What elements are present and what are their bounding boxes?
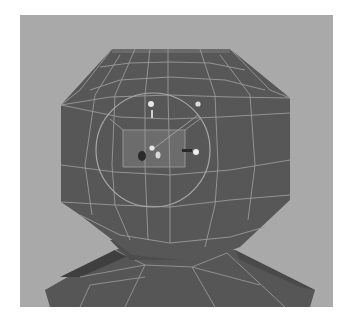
manipulator-handle-z[interactable] [156, 152, 161, 159]
manipulator-handle-top-right[interactable] [195, 101, 200, 106]
manipulator-handle-x[interactable] [193, 149, 199, 155]
manipulator-axis-x-arrow[interactable] [182, 149, 192, 152]
3d-viewport[interactable] [20, 15, 333, 307]
manipulator-center-handle[interactable] [149, 145, 154, 150]
viewport-canvas[interactable] [20, 15, 333, 307]
manipulator-axis-y-arrow[interactable] [138, 151, 146, 161]
manipulator-handle-top[interactable] [148, 101, 154, 107]
manipulator-handle-stem [151, 110, 153, 118]
